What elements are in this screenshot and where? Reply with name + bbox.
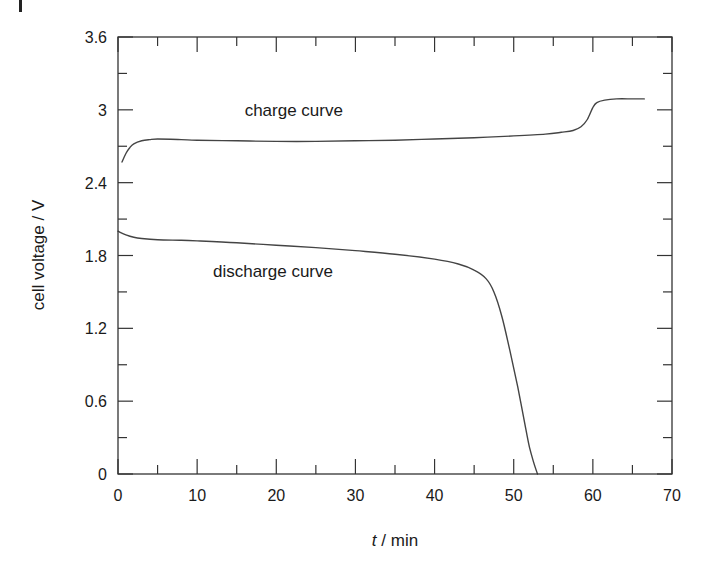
x-tick-label: 50 <box>505 487 523 504</box>
discharge-curve-label: discharge curve <box>213 262 333 281</box>
y-tick-label: 0 <box>98 466 107 483</box>
x-tick-label: 30 <box>347 487 365 504</box>
x-tick-label: 20 <box>267 487 285 504</box>
voltage-chart: 01020304050607000.61.21.82.433.6charge c… <box>0 0 705 566</box>
x-axis-title: t / min <box>372 531 418 550</box>
y-tick-label: 1.2 <box>85 320 107 337</box>
x-axis-title-unit: / min <box>377 531 419 550</box>
curves-layer <box>118 99 644 474</box>
y-axis-title: cell voltage / V <box>29 199 48 310</box>
x-tick-label: 60 <box>584 487 602 504</box>
charge-curve-line <box>122 99 644 162</box>
x-tick-label: 70 <box>663 487 681 504</box>
x-tick-label: 40 <box>426 487 444 504</box>
x-tick-label: 0 <box>114 487 123 504</box>
y-tick-label: 3 <box>98 102 107 119</box>
ticks-layer <box>118 37 672 474</box>
y-tick-label: 2.4 <box>85 175 107 192</box>
y-tick-label: 0.6 <box>85 393 107 410</box>
charge-curve-label: charge curve <box>245 101 343 120</box>
plot-frame <box>118 37 672 474</box>
y-tick-label: 1.8 <box>85 248 107 265</box>
x-tick-label: 10 <box>188 487 206 504</box>
labels-layer: 01020304050607000.61.21.82.433.6charge c… <box>85 29 681 504</box>
y-tick-label: 3.6 <box>85 29 107 46</box>
